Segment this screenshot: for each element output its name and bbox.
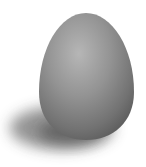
- egg-shape: [39, 13, 134, 140]
- egg-scene: [0, 0, 146, 167]
- egg-illustration: [0, 0, 146, 167]
